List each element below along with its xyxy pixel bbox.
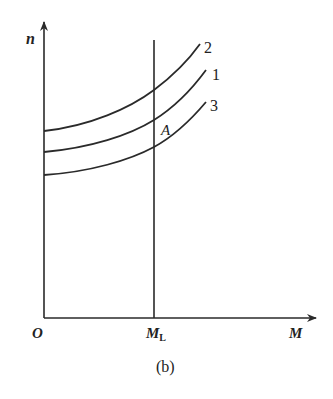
curve-2-label: 2 — [204, 39, 212, 56]
figure-caption: (b) — [156, 358, 175, 376]
load-torque-label: ML — [145, 325, 166, 343]
y-axis-label: n — [26, 30, 35, 47]
point-a-label: A — [160, 122, 171, 138]
origin-label: O — [32, 325, 43, 341]
x-axis-label: M — [288, 325, 303, 341]
curve-3-label: 3 — [210, 97, 218, 114]
curve-1 — [44, 70, 206, 152]
speed-torque-diagram: n O M ML 2 1 3 A (b) — [0, 0, 333, 399]
curve-3 — [44, 102, 206, 175]
curve-1-label: 1 — [212, 66, 220, 83]
curve-2 — [44, 44, 200, 131]
